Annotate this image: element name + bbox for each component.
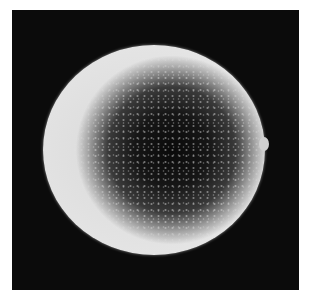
surface-texture: [43, 45, 265, 255]
particle-sphere: [43, 45, 265, 255]
surface-protrusion: [259, 137, 269, 151]
micrograph-frame: [12, 10, 299, 290]
